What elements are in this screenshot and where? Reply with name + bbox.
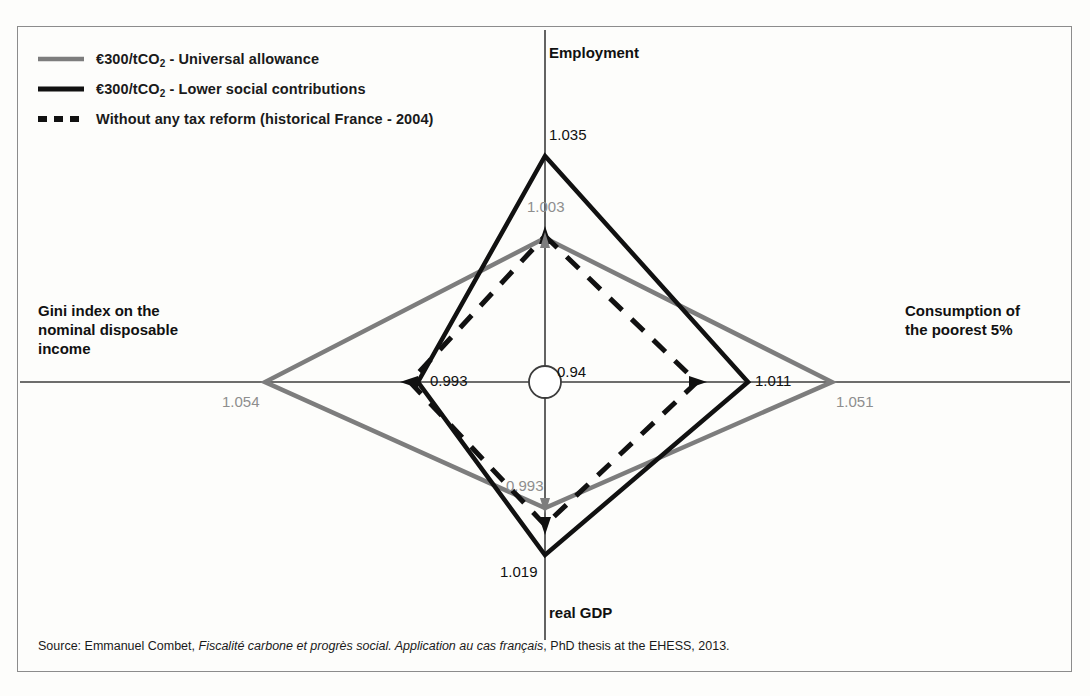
legend-label-no-tax-reform: Without any tax reform (historical Franc… [96,111,434,127]
legend-text-pre-0: €300/tCO [96,51,160,67]
arrow-marker-bottom [539,517,551,535]
legend-item-no-tax-reform: Without any tax reform (historical Franc… [38,104,498,134]
source-title-italic: Fiscalité carbone et progrès social. App… [199,639,544,653]
source-prefix: Source: Emmanuel Combet, [38,639,199,653]
axis-title-gini-line3: income [38,340,178,359]
legend-label-lower-social-contributions: €300/tCO2 - Lower social contributions [96,81,366,97]
source-note: Source: Emmanuel Combet, Fiscalité carbo… [38,639,730,653]
legend-swatch-gray-solid [38,52,84,66]
figure-container: €300/tCO2 - Universal allowance €300/tCO… [0,0,1090,696]
series-lower-social-contributions-polygon [418,156,748,555]
value-real-gdp-gray: 0.993 [506,477,544,494]
legend-item-lower-social-contributions: €300/tCO2 - Lower social contributions [38,74,498,104]
legend-text-post-1: - Lower social contributions [165,81,365,97]
legend: €300/tCO2 - Universal allowance €300/tCO… [38,44,498,134]
legend-swatch-black-solid [38,82,84,96]
legend-item-universal-allowance: €300/tCO2 - Universal allowance [38,44,498,74]
source-suffix: , PhD thesis at the EHESS, 2013. [543,639,729,653]
axis-title-employment: Employment [549,44,639,63]
axis-title-real-gdp: real GDP [549,604,612,623]
legend-text-sub-1: 2 [160,88,166,99]
legend-text-post-0: - Universal allowance [165,51,319,67]
arrow-marker-right [689,376,707,388]
value-consumption-gray: 1.051 [836,393,874,410]
value-real-gdp-black: 1.019 [500,563,538,580]
value-center: 0.94 [557,363,586,380]
arrow-marker-left [400,376,418,388]
axis-title-consumption-line2: the poorest 5% [905,321,1020,340]
value-consumption-black: 1.011 [755,372,791,389]
legend-label-universal-allowance: €300/tCO2 - Universal allowance [96,51,319,67]
legend-text-pre-1: €300/tCO [96,81,160,97]
axis-title-gini: Gini index on the nominal disposable inc… [38,302,178,358]
value-gini-gray: 1.054 [222,393,260,410]
axis-title-gini-line1: Gini index on the [38,302,178,321]
legend-text-sub-0: 2 [160,58,166,69]
legend-swatch-black-dashed [38,112,84,126]
value-employment-gray: 1.003 [527,198,565,215]
value-gini-black: 0.993 [430,372,468,389]
axis-title-consumption-line1: Consumption of [905,302,1020,321]
axis-title-gini-line2: nominal disposable [38,321,178,340]
axis-title-consumption: Consumption of the poorest 5% [905,302,1020,340]
value-employment-black: 1.035 [549,126,587,143]
